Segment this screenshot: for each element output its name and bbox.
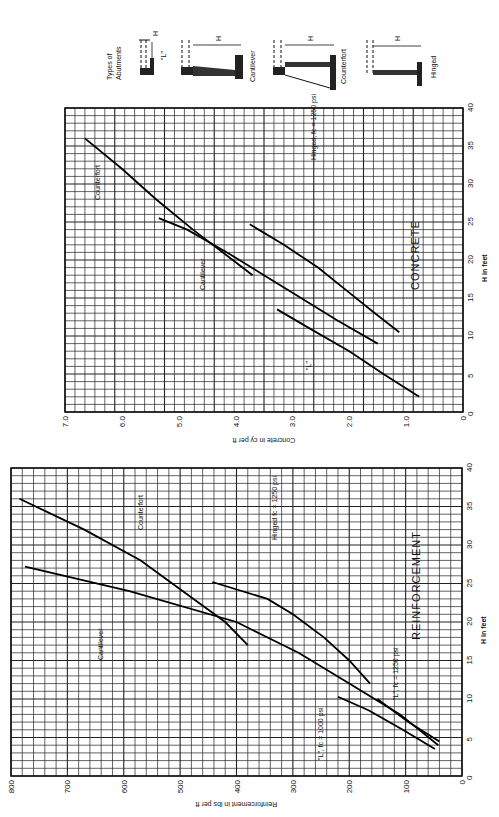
h-tick-label: 0 xyxy=(465,775,474,780)
value-tick-label: 2.0 xyxy=(345,415,354,427)
value-tick-label: 0 xyxy=(458,779,467,784)
value-tick-label: 600 xyxy=(120,779,129,793)
series-line xyxy=(338,697,435,749)
h-tick-label: 30 xyxy=(465,540,474,549)
series-label: Hinged, fc = 1250 psi xyxy=(310,94,318,160)
h-tick-label: 5 xyxy=(465,737,474,742)
value-tick-label: 3.0 xyxy=(288,415,297,427)
value-tick-label: 800 xyxy=(7,779,16,793)
h-tick-label: 10 xyxy=(466,331,475,340)
h-tick-label: 35 xyxy=(465,501,474,510)
h-tick-label: 30 xyxy=(466,179,475,188)
series-label: Counterfort xyxy=(94,165,101,200)
h-tick-label: 10 xyxy=(465,694,474,703)
value-tick-label: 5.0 xyxy=(175,415,184,427)
value-tick-label: 200 xyxy=(345,779,354,793)
concrete-chart: 0510152025303540H in feet01.02.03.04.05.… xyxy=(61,94,488,444)
h-tick-label: 20 xyxy=(465,617,474,626)
svg-text:"L", fc = 1000 psi: "L", fc = 1000 psi xyxy=(317,707,325,760)
series-label: Counterfort xyxy=(137,495,144,530)
reinforcement-chart: 0510152025303540H in feet010020030040050… xyxy=(7,463,487,808)
h-tick-label: 15 xyxy=(465,655,474,664)
value-tick-label: 400 xyxy=(233,779,242,793)
value-axis-label: Concrete in cy per ft xyxy=(233,436,296,444)
value-tick-label: 500 xyxy=(176,779,185,793)
series-line xyxy=(20,499,248,645)
abutment-l-icon xyxy=(139,40,154,75)
h-tick-label: 35 xyxy=(466,141,475,150)
value-tick-label: 1.0 xyxy=(402,415,411,427)
abutment-hinged-label: Hinged xyxy=(430,56,438,78)
value-tick-label: 700 xyxy=(63,779,72,793)
value-tick-label: 0 xyxy=(459,415,468,420)
svg-text:Counterfort: Counterfort xyxy=(94,165,101,200)
series-label: Hinged fc = 1250 psi xyxy=(271,476,279,540)
legend-title-line1: Types of xyxy=(106,53,114,80)
value-tick-label: 6.0 xyxy=(118,415,127,427)
value-axis-label: Reinforcement in lbs per ft xyxy=(196,800,278,808)
abutment-l-label: "L" xyxy=(160,51,167,60)
h-tick-label: 0 xyxy=(466,411,475,416)
svg-text:"L", fc = 1250 psi: "L", fc = 1250 psi xyxy=(392,647,400,700)
svg-text:Counterfort: Counterfort xyxy=(137,495,144,530)
series-label: "L" xyxy=(305,361,312,370)
value-tick-label: 300 xyxy=(289,779,298,793)
series-label: "L", fc = 1250 psi xyxy=(392,647,400,700)
abutment-counterfort-h-label: H xyxy=(307,36,314,41)
abutment-cantilever-h-label: H xyxy=(215,36,222,41)
value-tick-label: 4.0 xyxy=(232,415,241,427)
series-line xyxy=(250,224,399,332)
series-line xyxy=(25,567,438,746)
abutment-counterfort-icon xyxy=(273,40,336,90)
series-label: Cantilever xyxy=(97,628,104,660)
svg-text:"L": "L" xyxy=(305,361,312,370)
chart-title: REINFORCEMENT xyxy=(410,531,422,640)
h-tick-label: 25 xyxy=(466,217,475,226)
h-tick-label: 40 xyxy=(466,103,475,112)
series-line xyxy=(277,309,419,396)
h-axis-label: H in feet xyxy=(480,616,487,644)
h-tick-label: 25 xyxy=(465,578,474,587)
chart-title: CONCRETE xyxy=(409,220,421,290)
svg-text:Hinged, fc = 1250 psi: Hinged, fc = 1250 psi xyxy=(310,94,318,160)
abutment-hinged-icon xyxy=(367,40,422,86)
abutment-types-legend: Types of Abutments "L" H H Cantilever xyxy=(106,31,438,90)
abutment-hinged-h-label: H xyxy=(394,36,401,41)
svg-text:Cantilever: Cantilever xyxy=(199,258,206,290)
h-tick-label: 20 xyxy=(466,255,475,264)
h-axis-label: H in feet xyxy=(481,254,488,282)
svg-text:Cantilever: Cantilever xyxy=(97,628,104,660)
h-tick-label: 15 xyxy=(466,293,475,302)
abutment-cantilever-label: Cantilever xyxy=(249,50,256,82)
value-tick-label: 100 xyxy=(402,779,411,793)
h-tick-label: 40 xyxy=(465,463,474,472)
series-label: "L", fc = 1000 psi xyxy=(317,707,325,760)
legend-title-line2: Abutments xyxy=(115,46,122,80)
abutment-l-h-label: H xyxy=(152,31,159,36)
abutment-counterfort-label: Counterfort xyxy=(340,49,347,84)
value-tick-label: 7.0 xyxy=(61,415,70,427)
svg-text:Hinged fc = 1250 psi: Hinged fc = 1250 psi xyxy=(271,476,279,540)
figure-canvas: Types of Abutments "L" H H Cantilever xyxy=(0,0,499,817)
series-label: Cantilever xyxy=(199,258,206,290)
abutment-cantilever-icon xyxy=(181,40,243,79)
h-tick-label: 5 xyxy=(466,373,475,378)
